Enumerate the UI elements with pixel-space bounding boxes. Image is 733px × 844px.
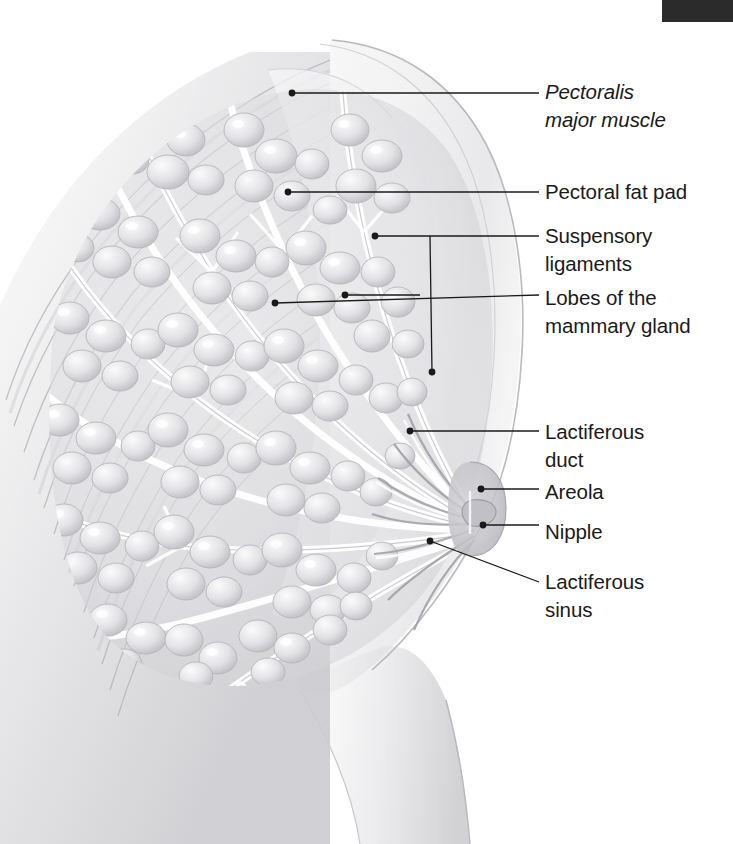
label-lactiferous-duct: Lactiferous duct [545, 418, 644, 474]
label-areola: Areola [545, 478, 604, 506]
label-pectoral-fat-pad: Pectoral fat pad [545, 178, 687, 206]
label-lactiferous-sinus: Lactiferous sinus [545, 568, 644, 624]
label-nipple: Nipple [545, 518, 603, 546]
label-suspensory-ligaments: Suspensory ligaments [545, 222, 652, 278]
label-pectoralis-major-muscle: Pectoralis major muscle [545, 78, 666, 134]
breast-anatomy-figure: Pectoralis major muscle Pectoral fat pad… [0, 0, 733, 844]
label-lobes-of-the-mammary-gland: Lobes of the mammary gland [545, 284, 691, 340]
corner-black-bar [662, 0, 733, 22]
